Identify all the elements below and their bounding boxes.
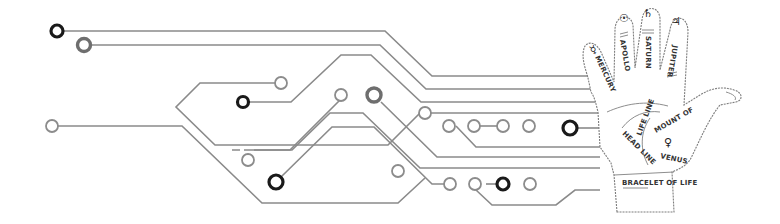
- pad: [419, 107, 431, 119]
- trace-bottom-out: [476, 190, 600, 205]
- pad-dark: [497, 178, 509, 190]
- circuit-traces: [58, 31, 600, 205]
- pad: [523, 120, 535, 132]
- pad-dark-mid: [563, 121, 577, 135]
- label-saturn: SATURN: [644, 36, 652, 69]
- pad: [242, 154, 254, 166]
- pad-dark-top: [51, 25, 63, 37]
- pad: [497, 120, 509, 132]
- pad-dark-bottom: [269, 175, 283, 189]
- pad: [524, 178, 536, 190]
- pad: [443, 120, 455, 132]
- trace-top-2: [92, 45, 600, 89]
- trace-top-1: [63, 31, 600, 76]
- pad-grey-top: [78, 39, 91, 52]
- trace-lower-1: [232, 113, 600, 168]
- circuit-pads: [46, 25, 577, 190]
- pad: [469, 178, 481, 190]
- pad: [392, 165, 404, 177]
- trace-upper-2: [249, 55, 600, 102]
- sun-symbol-icon: ☉: [619, 12, 629, 25]
- trace-left-pad: [244, 100, 340, 150]
- venus-symbol-icon: ♀: [664, 136, 672, 149]
- label-bracelet-of-life: BRACELET OF LIFE: [622, 179, 698, 187]
- pad: [46, 120, 58, 132]
- palmistry-hand: ☿ ☉ ♄ ♃ MERCURY APOLLO SATURN JUPITER HE…: [583, 7, 741, 212]
- jupiter-symbol-icon: ♃: [671, 15, 681, 28]
- saturn-symbol-icon: ♄: [643, 7, 653, 20]
- pad: [335, 89, 347, 101]
- pad: [468, 120, 480, 132]
- pad: [275, 77, 287, 89]
- pad-dark: [238, 97, 249, 108]
- trace-left: [58, 126, 425, 203]
- pad-grey-ring: [367, 88, 381, 102]
- palmistry-circuit-illustration: ☿ ☉ ♄ ♃ MERCURY APOLLO SATURN JUPITER HE…: [0, 0, 780, 224]
- pad: [444, 178, 456, 190]
